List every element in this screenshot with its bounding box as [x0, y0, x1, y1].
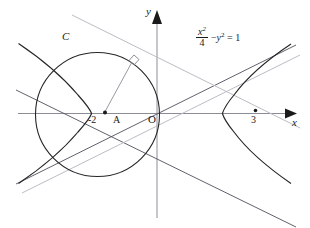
equation-denominator: 4	[197, 38, 206, 48]
y-axis-arrowhead	[152, 10, 162, 24]
point-three-label: 3	[251, 115, 256, 125]
equation-numerator: x2	[196, 27, 208, 37]
right-angle-mark-icon	[129, 55, 139, 65]
equation-equals-one: = 1	[227, 32, 240, 43]
point-marker-3	[254, 109, 258, 113]
geometry-figure: y x O C -2 A 3 x2 4 −y2 = 1	[0, 0, 310, 228]
origin-label: O	[148, 114, 156, 125]
point-a-label: A	[113, 115, 120, 125]
radius-segment	[104, 62, 132, 114]
curve-c-label: C	[62, 31, 69, 42]
y-axis-label: y	[146, 6, 151, 17]
point-marker-a	[103, 111, 107, 115]
x-axis-label: x	[292, 117, 297, 128]
equation-numerator-power: 2	[202, 25, 206, 33]
equation-y-power: 2	[221, 30, 225, 38]
equation-remainder: −y2 = 1	[211, 33, 240, 43]
hyperbola-equation: x2 4 −y2 = 1	[196, 27, 240, 48]
equation-fraction: x2 4	[196, 27, 208, 48]
vertex-negative-two-label: -2	[88, 115, 96, 125]
tangent-line-lower	[22, 55, 300, 193]
